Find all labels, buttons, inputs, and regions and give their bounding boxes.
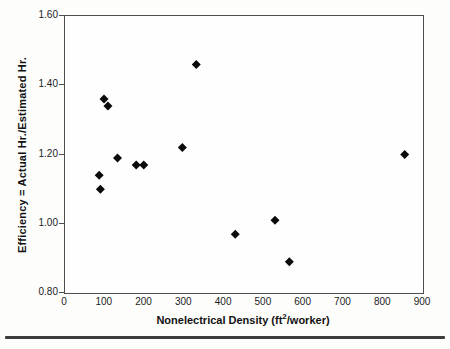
data-point xyxy=(400,150,409,159)
x-tick-label-300: 300 xyxy=(163,296,203,307)
scatter-plot-figure: Efficiency = Actual Hr./Estimated Hr. 0.… xyxy=(0,0,450,349)
data-point xyxy=(99,95,108,104)
x-tick-label-500: 500 xyxy=(243,296,283,307)
x-tick-label-400: 400 xyxy=(203,296,243,307)
y-tick-label-1.40: 1.40 xyxy=(0,78,58,90)
data-point xyxy=(113,153,122,162)
data-point xyxy=(231,230,240,239)
x-axis-title: Nonelectrical Density (ft2/worker) xyxy=(64,312,422,326)
x-tick-label-900: 900 xyxy=(402,296,442,307)
x-tick-label-100: 100 xyxy=(84,296,124,307)
data-point xyxy=(96,185,105,194)
x-axis-title-tail: /worker) xyxy=(287,314,330,326)
y-tick-label-1.00: 1.00 xyxy=(0,217,58,229)
x-tick-label-800: 800 xyxy=(362,296,402,307)
y-tick-mark xyxy=(59,154,64,155)
data-point xyxy=(178,143,187,152)
page-divider-rule xyxy=(5,336,445,339)
y-tick-mark xyxy=(59,292,64,293)
data-point xyxy=(103,102,112,111)
x-tick-label-600: 600 xyxy=(283,296,323,307)
y-tick-mark xyxy=(59,84,64,85)
x-tick-label-200: 200 xyxy=(124,296,164,307)
data-point xyxy=(95,171,104,180)
data-point xyxy=(271,216,280,225)
x-tick-label-0: 0 xyxy=(44,296,84,307)
plot-area xyxy=(64,15,424,294)
y-tick-mark xyxy=(59,223,64,224)
y-tick-label-1.20: 1.20 xyxy=(0,148,58,160)
data-point xyxy=(285,257,294,266)
x-tick-label-700: 700 xyxy=(322,296,362,307)
y-tick-mark xyxy=(59,15,64,16)
y-tick-label-1.60: 1.60 xyxy=(0,9,58,21)
x-axis-title-text: Nonelectrical Density (ft xyxy=(156,314,282,326)
data-points-layer xyxy=(65,16,423,293)
data-point xyxy=(192,60,201,69)
data-point xyxy=(139,160,148,169)
